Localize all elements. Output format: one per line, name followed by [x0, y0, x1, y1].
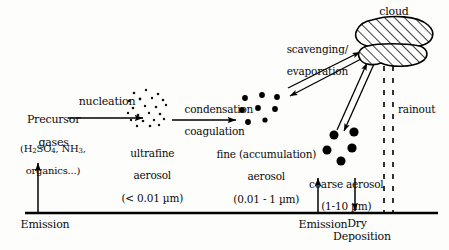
evaporation-coarse-arrow	[344, 64, 374, 131]
precursor-formula-label: (H2SO4, NH3, organics...)	[8, 133, 86, 187]
precursor-line1: Precursor	[27, 113, 80, 126]
formula-comma: ,	[83, 143, 86, 154]
evaporation-label: evaporation	[287, 65, 348, 77]
formula-open: (H	[20, 143, 32, 154]
cloud-shape	[356, 17, 433, 67]
condensation-label: condensation	[185, 103, 254, 115]
cloud-label: cloud	[379, 6, 408, 18]
fine-line2: aerosol	[248, 170, 285, 182]
formula-organics: organics...)	[26, 165, 81, 176]
emission-right-label: Emission	[299, 219, 348, 231]
formula-so: SO	[37, 143, 52, 154]
coarse-dot-cluster	[323, 127, 359, 165]
fine-line1: fine (accumulation)	[216, 148, 316, 160]
deposition-label: Deposition	[333, 231, 391, 243]
ultrafine-line2: aerosol	[134, 169, 171, 181]
coarse-line1: coarse aerosol	[309, 178, 384, 190]
diagram-canvas: Precursor gases (H2SO4, NH3, organics...…	[0, 0, 449, 250]
coarse-aerosol-label: coarse aerosol (1-10 µm)	[296, 168, 383, 224]
ultrafine-size: (< 0.01 µm)	[121, 192, 183, 204]
fine-size: (0.01 - 1 µm)	[233, 193, 299, 205]
ultrafine-line1: ultrafine	[130, 147, 174, 159]
nucleation-label: nucleation	[79, 96, 136, 108]
scavenging-label: scavenging/	[287, 43, 348, 55]
coarse-size: (1-10 µm)	[321, 200, 371, 212]
emission-left-label: Emission	[21, 219, 70, 231]
dry-label: Dry	[347, 218, 367, 230]
coagulation-label: coagulation	[185, 125, 245, 137]
rainout-label: rainout	[398, 104, 435, 115]
ultrafine-aerosol-label: ultrafine aerosol (< 0.01 µm)	[109, 137, 183, 215]
formula-nh: , NH	[56, 143, 79, 154]
scavenging-evaporation-label: scavenging/ evaporation	[274, 33, 348, 89]
